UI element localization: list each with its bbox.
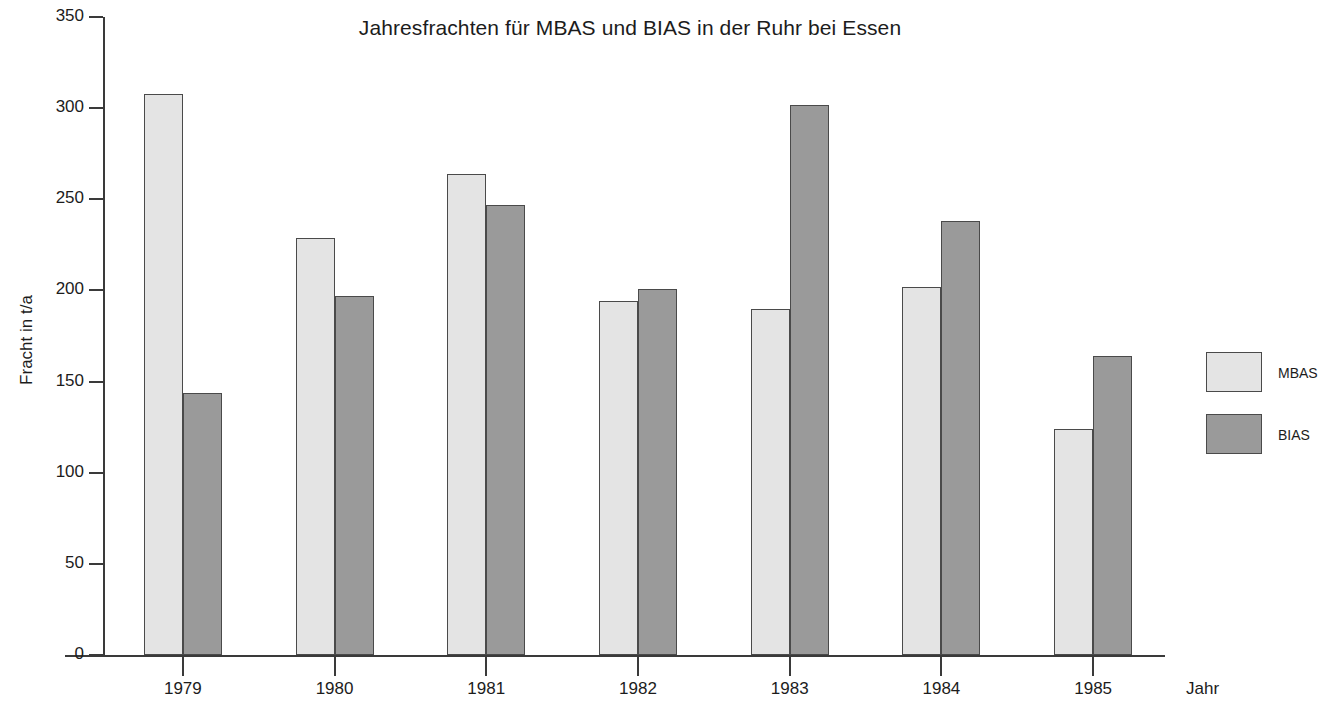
- x-tick-label-1979: 1979: [143, 679, 223, 699]
- x-tick-label-1985: 1985: [1053, 679, 1133, 699]
- bar-mbas-1981: [447, 174, 486, 655]
- x-tick-1980: [334, 657, 336, 676]
- x-tick-label-1983: 1983: [750, 679, 830, 699]
- bar-mbas-1984: [902, 287, 941, 655]
- bar-bias-1985: [1093, 356, 1132, 655]
- bar-bias-1980: [335, 296, 374, 655]
- bar-bias-1983: [790, 105, 829, 656]
- y-tick-label-300: 300: [56, 97, 84, 117]
- bar-mbas-1983: [751, 309, 790, 655]
- x-tick-1979: [182, 657, 184, 676]
- y-tick-label-150: 150: [56, 371, 84, 391]
- y-tick-350: [89, 16, 103, 18]
- y-tick-label-350: 350: [56, 6, 84, 26]
- y-tick-150: [89, 381, 103, 383]
- y-tick-label-100: 100: [56, 462, 84, 482]
- y-tick-label-0: 0: [75, 644, 84, 664]
- legend-item-mbas[interactable]: MBAS: [1206, 352, 1336, 402]
- chart-container: Jahresfrachten für MBAS und BIAS in der …: [0, 0, 1338, 707]
- bar-mbas-1979: [144, 94, 183, 655]
- y-axis-title: Fracht in t/a: [17, 250, 37, 430]
- legend-label-mbas: MBAS: [1278, 365, 1318, 381]
- x-tick-1984: [940, 657, 942, 676]
- x-tick-label-1980: 1980: [295, 679, 375, 699]
- plot-area: [103, 17, 1173, 655]
- x-tick-1983: [789, 657, 791, 676]
- legend-item-bias[interactable]: BIAS: [1206, 414, 1336, 464]
- x-tick-label-1981: 1981: [446, 679, 526, 699]
- y-tick-300: [89, 107, 103, 109]
- x-tick-1981: [485, 657, 487, 676]
- bar-mbas-1982: [599, 301, 638, 655]
- bars-layer: [103, 17, 1173, 655]
- bar-bias-1984: [941, 221, 980, 655]
- x-tick-1985: [1092, 657, 1094, 676]
- legend-swatch-mbas: [1206, 352, 1262, 392]
- legend-swatch-bias: [1206, 414, 1262, 454]
- x-tick-1982: [637, 657, 639, 676]
- legend-label-bias: BIAS: [1278, 427, 1310, 443]
- y-tick-label-200: 200: [56, 279, 84, 299]
- y-tick-50: [89, 563, 103, 565]
- bar-bias-1979: [183, 393, 222, 655]
- y-tick-label-250: 250: [56, 188, 84, 208]
- x-axis-title: Jahr: [1186, 679, 1219, 699]
- bar-bias-1982: [638, 289, 677, 655]
- y-tick-0: [89, 654, 103, 656]
- x-tick-label-1984: 1984: [901, 679, 981, 699]
- bar-mbas-1980: [296, 238, 335, 655]
- bar-mbas-1985: [1054, 429, 1093, 655]
- y-tick-100: [89, 472, 103, 474]
- chart-legend: MBAS BIAS: [1206, 352, 1336, 476]
- y-tick-label-50: 50: [65, 553, 84, 573]
- x-axis-line: [65, 655, 1165, 657]
- y-tick-250: [89, 198, 103, 200]
- x-tick-label-1982: 1982: [598, 679, 678, 699]
- y-tick-200: [89, 289, 103, 291]
- bar-bias-1981: [486, 205, 525, 655]
